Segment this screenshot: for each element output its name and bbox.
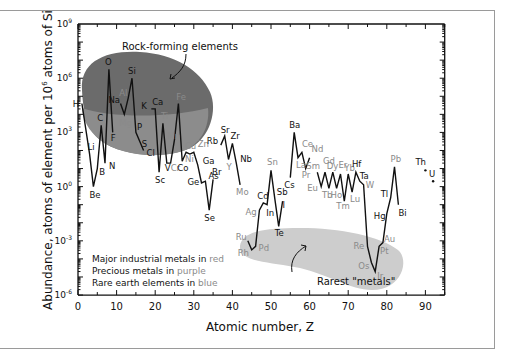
x-tick-label: 0 xyxy=(75,301,81,312)
element-label-re: Re xyxy=(354,241,365,251)
element-label-pb: Pb xyxy=(391,154,402,164)
rarest-metals-annotation: Rarest "metals" xyxy=(317,276,395,287)
element-label-sc: Sc xyxy=(155,175,165,185)
element-label-ga: Ga xyxy=(203,156,215,166)
svg-text:Rare earth elements in blue: Rare earth elements in blue xyxy=(92,278,218,288)
x-tick-label: 90 xyxy=(419,301,432,312)
element-label-b: B xyxy=(99,167,105,177)
element-label-pd: Pd xyxy=(259,243,270,253)
y-tick-label: 103 xyxy=(57,125,72,137)
element-label-hf: Hf xyxy=(352,159,362,169)
element-label-y: Y xyxy=(226,162,233,172)
element-label-f: F xyxy=(111,133,116,143)
element-label-nb: Nb xyxy=(240,154,252,164)
element-label-p: P xyxy=(137,122,142,132)
element-label-br: Br xyxy=(212,167,222,177)
element-label-ag: Ag xyxy=(245,207,256,217)
element-label-sm: Sm xyxy=(306,161,320,171)
element-label-tl: Tl xyxy=(380,189,389,199)
x-tick-label: 50 xyxy=(265,301,278,312)
element-label-rh: Rh xyxy=(238,248,249,258)
element-label-se: Se xyxy=(204,213,215,223)
element-label-dy: Dy xyxy=(327,161,339,171)
element-label-ge: Ge xyxy=(188,177,200,187)
element-label-eu: Eu xyxy=(307,183,318,193)
element-label-cl: Cl xyxy=(147,148,155,158)
y-tick-label: 10-3 xyxy=(55,234,73,246)
element-label-cu: Cu xyxy=(185,141,196,151)
element-label-al: Al xyxy=(119,88,127,98)
y-axis-label: Abundance, atoms of element per 106 atom… xyxy=(41,10,55,310)
element-label-sr: Sr xyxy=(221,125,230,135)
y-tick-label: 106 xyxy=(57,71,72,83)
element-label-ho: Ho xyxy=(331,190,343,200)
element-label-li: Li xyxy=(88,142,95,152)
color-legend: Major industrial metals in red Precious … xyxy=(92,254,224,288)
element-label-h: H xyxy=(73,99,79,109)
element-label-tm: Tm xyxy=(335,201,349,211)
element-label-sn: Sn xyxy=(267,157,278,167)
x-tick-label: 60 xyxy=(303,301,316,312)
element-label-o: O xyxy=(105,57,112,67)
x-tick-label: 40 xyxy=(226,301,239,312)
element-label-zr: Zr xyxy=(230,131,240,141)
element-label-co: Co xyxy=(177,163,188,173)
element-label-cd: Cd xyxy=(257,191,268,201)
element-label-pt: Pt xyxy=(380,246,389,256)
element-label-i: I xyxy=(283,200,286,210)
element-label-mg: Mg xyxy=(119,118,132,128)
y-tick-label: 109 xyxy=(57,17,72,29)
element-label-cs: Cs xyxy=(284,180,295,190)
svg-text:Major industrial metals in red: Major industrial metals in red xyxy=(92,254,224,264)
element-label-rb: Rb xyxy=(207,136,218,146)
element-label-th: Th xyxy=(414,157,426,167)
point-th xyxy=(424,169,426,171)
rock-forming-region xyxy=(82,52,213,155)
element-label-bi: Bi xyxy=(398,208,406,218)
element-label-be: Be xyxy=(89,190,100,200)
y-tick-label: 10-6 xyxy=(55,288,73,300)
point-u xyxy=(432,180,434,182)
element-label-mn: Mn xyxy=(168,131,181,141)
element-label-fe: Fe xyxy=(176,92,186,102)
element-label-n: N xyxy=(109,161,115,171)
x-tick-label: 20 xyxy=(149,301,162,312)
element-label-lu: Lu xyxy=(350,194,360,204)
element-label-ti: Ti xyxy=(160,111,168,121)
element-label-ba: Ba xyxy=(289,120,300,130)
element-label-u: U xyxy=(429,169,435,179)
element-label-mo: Mo xyxy=(236,187,249,197)
element-label-k: K xyxy=(141,101,147,111)
element-label-ca: Ca xyxy=(152,97,163,107)
svg-text:Precious metals in purple: Precious metals in purple xyxy=(92,266,206,276)
rock-forming-annotation: Rock-forming elements xyxy=(122,41,238,52)
element-label-ni: Ni xyxy=(185,154,194,164)
x-tick-label: 10 xyxy=(110,301,123,312)
abundance-line xyxy=(221,136,240,185)
element-label-ru: Ru xyxy=(236,232,247,242)
x-axis-label: Atomic number, Z xyxy=(206,320,314,334)
element-label-w: W xyxy=(366,180,375,190)
element-label-os: Os xyxy=(358,261,370,271)
element-label-nd: Nd xyxy=(312,144,324,154)
y-tick-label: 100 xyxy=(57,180,72,192)
abundance-chart: 010203040506070809010910610310010-310-6 … xyxy=(0,0,509,362)
element-label-c: C xyxy=(97,113,103,123)
element-label-au: Au xyxy=(384,234,395,244)
element-label-la: La xyxy=(296,160,306,170)
element-label-si: Si xyxy=(128,66,136,76)
x-tick-label: 30 xyxy=(187,301,200,312)
element-label-te: Te xyxy=(274,228,284,238)
x-tick-label: 80 xyxy=(380,301,393,312)
x-tick-label: 70 xyxy=(342,301,355,312)
element-label-hg: Hg xyxy=(374,211,386,221)
element-label-in: In xyxy=(266,208,274,218)
